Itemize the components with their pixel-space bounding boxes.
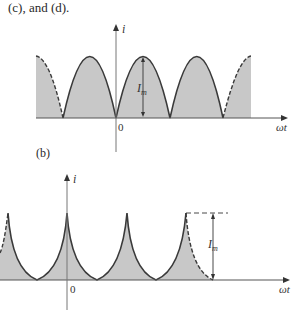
y-axis-arrow-icon (113, 24, 119, 31)
x-axis-label: ωt (279, 283, 291, 295)
x-axis-label: ωt (276, 121, 288, 133)
origin-label: 0 (70, 283, 76, 295)
full-wave-rectified-plot: i ωt 0 Im (0, 0, 300, 160)
cusp-waveform-plot: i ωt 0 Im (0, 160, 300, 324)
amplitude-label: Im (207, 237, 218, 253)
amplitude-arrow-up-icon (211, 213, 215, 219)
figure-full-wave-rectified: i ωt 0 Im (0, 0, 300, 160)
origin-label: 0 (118, 121, 124, 133)
y-axis-arrow-icon (64, 174, 70, 181)
shaded-area (36, 56, 251, 118)
y-axis-label: i (122, 22, 125, 36)
figure-cusp-waveform: i ωt 0 Im (0, 160, 300, 324)
panel-label-b: (b) (36, 146, 50, 161)
y-axis-label: i (73, 172, 76, 186)
waveform-solid (8, 213, 186, 280)
